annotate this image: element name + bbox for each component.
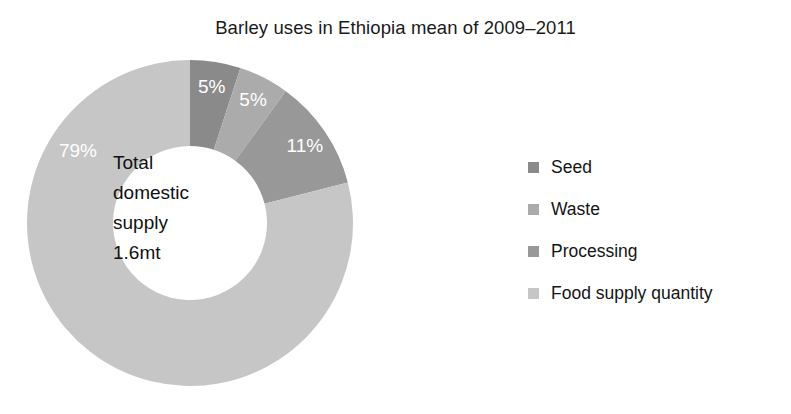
legend-label-waste: Waste bbox=[551, 199, 600, 220]
legend-label-seed: Seed bbox=[551, 157, 592, 178]
legend-label-food-supply-quantity: Food supply quantity bbox=[551, 283, 713, 304]
center-line-4: 1.6mt bbox=[113, 238, 273, 268]
slice-value-label-processing: 11% bbox=[287, 135, 324, 156]
center-annotation: Total domestic supply 1.6mt bbox=[113, 148, 273, 268]
chart-canvas: Barley uses in Ethiopia mean of 2009–201… bbox=[0, 0, 791, 414]
legend-swatch-food-supply-quantity bbox=[528, 288, 539, 299]
center-line-1: Total bbox=[113, 148, 273, 178]
legend-item-seed[interactable]: Seed bbox=[528, 146, 778, 188]
legend-swatch-seed bbox=[528, 162, 539, 173]
legend-item-waste[interactable]: Waste bbox=[528, 188, 778, 230]
legend-item-processing[interactable]: Processing bbox=[528, 230, 778, 272]
chart-title: Barley uses in Ethiopia mean of 2009–201… bbox=[0, 17, 791, 39]
center-line-3: supply bbox=[113, 208, 273, 238]
chart-legend: Seed Waste Processing Food supply quanti… bbox=[528, 146, 778, 314]
legend-swatch-waste bbox=[528, 204, 539, 215]
slice-value-label-food: 79% bbox=[59, 140, 97, 161]
center-line-2: domestic bbox=[113, 178, 273, 208]
slice-value-label-seed: 5% bbox=[198, 76, 226, 97]
legend-item-food-supply-quantity[interactable]: Food supply quantity bbox=[528, 272, 778, 314]
slice-value-label-waste: 5% bbox=[239, 89, 267, 110]
legend-label-processing: Processing bbox=[551, 241, 638, 262]
legend-swatch-processing bbox=[528, 246, 539, 257]
